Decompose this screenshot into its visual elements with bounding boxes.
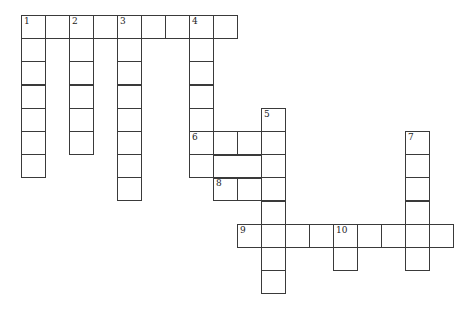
clue-number: 9	[240, 226, 246, 235]
clue-number: 4	[192, 17, 198, 26]
crossword-cell[interactable]	[405, 247, 430, 271]
crossword-cell[interactable]	[189, 61, 214, 85]
crossword-cell[interactable]	[309, 224, 334, 248]
grid-gap	[213, 155, 262, 179]
crossword-cell[interactable]	[189, 85, 214, 109]
crossword-cell-8[interactable]: 8	[213, 177, 238, 201]
clue-number: 1	[24, 17, 30, 26]
crossword-cell[interactable]	[237, 131, 262, 155]
crossword-cell-3[interactable]: 3	[117, 15, 142, 39]
crossword-cell[interactable]	[165, 15, 190, 39]
crossword-cell[interactable]	[93, 15, 118, 39]
crossword-cell-10[interactable]: 10	[333, 224, 358, 248]
clue-number: 10	[336, 226, 347, 235]
clue-number: 2	[72, 17, 78, 26]
crossword-cell[interactable]	[405, 201, 430, 225]
crossword-cell[interactable]	[405, 177, 430, 201]
crossword-cell[interactable]	[381, 224, 406, 248]
crossword-cell-1[interactable]: 1	[21, 15, 46, 39]
crossword-cell[interactable]	[117, 38, 142, 62]
crossword-cell[interactable]	[213, 131, 238, 155]
crossword-cell[interactable]	[69, 61, 94, 85]
crossword-cell[interactable]	[357, 224, 382, 248]
clue-number: 8	[216, 179, 222, 188]
crossword-cell-5[interactable]: 5	[261, 108, 286, 132]
crossword-cell[interactable]	[21, 131, 46, 155]
crossword-cell[interactable]	[189, 154, 214, 178]
crossword-cell[interactable]	[261, 177, 286, 201]
crossword-cell-9[interactable]: 9	[237, 224, 262, 248]
crossword-cell[interactable]	[117, 131, 142, 155]
clue-number: 3	[120, 17, 126, 26]
clue-number: 6	[192, 133, 198, 142]
crossword-cell[interactable]	[261, 201, 286, 225]
crossword-cell[interactable]	[21, 108, 46, 132]
crossword-cell[interactable]	[261, 247, 286, 271]
crossword-cell[interactable]	[69, 108, 94, 132]
crossword-cell[interactable]	[333, 247, 358, 271]
crossword-cell-4[interactable]: 4	[189, 15, 214, 39]
crossword-cell-7[interactable]: 7	[405, 131, 430, 155]
crossword-cell[interactable]	[189, 108, 214, 132]
crossword-cell[interactable]	[69, 38, 94, 62]
crossword-cell[interactable]	[213, 15, 238, 39]
crossword-cell[interactable]	[21, 61, 46, 85]
crossword-cell[interactable]	[141, 15, 166, 39]
crossword-cell[interactable]	[261, 224, 286, 248]
crossword-cell[interactable]	[45, 15, 70, 39]
crossword-cell[interactable]	[69, 131, 94, 155]
crossword-cell[interactable]	[189, 38, 214, 62]
crossword-cell[interactable]	[117, 177, 142, 201]
clue-number: 7	[408, 133, 414, 142]
crossword-cell[interactable]	[117, 154, 142, 178]
crossword-cell[interactable]	[261, 131, 286, 155]
crossword-cell[interactable]	[429, 224, 454, 248]
crossword-cell[interactable]	[237, 177, 262, 201]
crossword-cell[interactable]	[117, 85, 142, 109]
crossword-cell[interactable]	[21, 154, 46, 178]
crossword-cell-2[interactable]: 2	[69, 15, 94, 39]
crossword-cell[interactable]	[69, 85, 94, 109]
crossword-cell[interactable]	[117, 108, 142, 132]
crossword-cell[interactable]	[21, 85, 46, 109]
clue-number: 5	[264, 110, 270, 119]
crossword-cell[interactable]	[21, 38, 46, 62]
crossword-cell-6[interactable]: 6	[189, 131, 214, 155]
crossword-cell[interactable]	[261, 154, 286, 178]
crossword-cell[interactable]	[261, 270, 286, 294]
crossword-cell[interactable]	[117, 61, 142, 85]
crossword-cell[interactable]	[405, 224, 430, 248]
crossword-cell[interactable]	[285, 224, 310, 248]
crossword-cell[interactable]	[405, 154, 430, 178]
